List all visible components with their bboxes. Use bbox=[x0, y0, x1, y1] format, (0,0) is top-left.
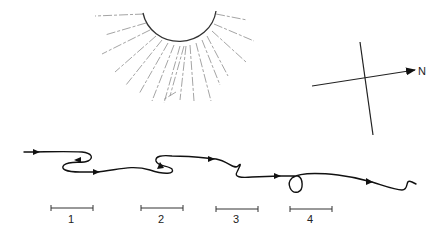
scale-label-4: 4 bbox=[307, 213, 313, 225]
trajectory-path bbox=[24, 152, 416, 193]
path-direction-arrows bbox=[33, 149, 373, 185]
scale-segment-1 bbox=[51, 205, 93, 211]
arrow-right-icon bbox=[366, 178, 373, 185]
compass-north-label: N bbox=[418, 65, 426, 77]
arrow-right-icon bbox=[274, 173, 281, 179]
arrow-right-icon bbox=[33, 149, 40, 155]
compass-cross-line bbox=[360, 42, 373, 135]
sun-outline bbox=[143, 11, 216, 41]
scale-label-1: 1 bbox=[68, 213, 74, 225]
scale-label-3: 3 bbox=[233, 213, 239, 225]
sun-icon bbox=[95, 11, 254, 103]
arrow-right-icon bbox=[208, 156, 215, 162]
arrow-right-icon bbox=[93, 169, 100, 175]
scale-label-2: 2 bbox=[158, 213, 164, 225]
scale-segment-4 bbox=[290, 206, 332, 212]
compass-north-arrow bbox=[312, 70, 415, 86]
diagram-canvas: N 1 bbox=[0, 0, 445, 234]
scale-segment-2 bbox=[141, 205, 183, 211]
scale-segment-3 bbox=[216, 206, 258, 212]
compass bbox=[312, 42, 415, 135]
scale-segments bbox=[51, 205, 332, 212]
sun-rays bbox=[95, 14, 254, 103]
